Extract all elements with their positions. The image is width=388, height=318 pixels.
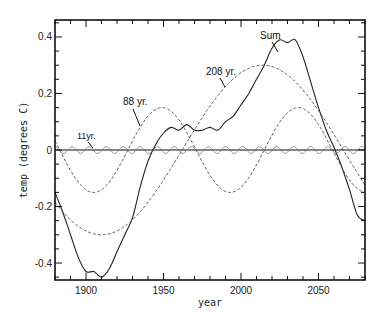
y-tick-label: -0.2 <box>35 201 53 212</box>
y-tick-label: -0.4 <box>35 258 53 269</box>
sum-label: Sum <box>260 30 281 41</box>
x-tick-label: 2050 <box>307 285 330 296</box>
208yr-label: 208 yr. <box>206 66 236 77</box>
y-tick-label: 0.4 <box>38 31 52 42</box>
x-tick-label: 1900 <box>75 285 98 296</box>
208yr-arrow <box>220 78 225 87</box>
y-tick-label: 0 <box>46 145 52 156</box>
x-axis-title: year <box>198 297 222 308</box>
y-axis-title: temp (degrees C) <box>18 102 29 198</box>
88yr-label: 88 yr. <box>123 96 147 107</box>
11yr-label: 11yr. <box>77 131 96 141</box>
88yr-arrow <box>133 109 140 126</box>
x-tick-label: 1950 <box>152 285 175 296</box>
y-tick-label: 0.2 <box>38 88 52 99</box>
axes: 1900195020002050-0.4-0.200.20.4 <box>35 20 365 296</box>
x-tick-label: 2000 <box>230 285 253 296</box>
chart: 1900195020002050-0.4-0.200.20.4 Sum 208 … <box>0 0 388 318</box>
